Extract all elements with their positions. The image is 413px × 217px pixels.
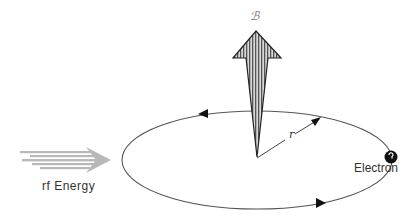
electron-label: Electron: [354, 161, 398, 175]
magnetic-field-arrow-icon: [233, 31, 281, 157]
orbit-arrow-bottom-icon: [316, 198, 326, 208]
radius-label: r: [289, 128, 294, 141]
rf-energy-arrow-icon: [20, 147, 111, 173]
magnetic-field-label: ℬ: [250, 9, 259, 23]
rf-energy-label: rf Energy: [42, 179, 95, 193]
orbit-arrow-top-icon: [198, 109, 208, 118]
